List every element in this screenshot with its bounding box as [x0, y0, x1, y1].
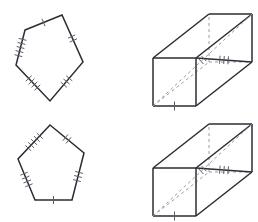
geometry-figure-canvas [0, 0, 258, 222]
tick-mark-line [228, 166, 229, 174]
tick-mark-line [220, 166, 221, 174]
tick-mark-line [220, 56, 221, 64]
figure-background [0, 0, 258, 222]
tick-mark-line [228, 56, 229, 64]
tick-mark-line [224, 56, 225, 64]
tick-mark-line [224, 166, 225, 174]
